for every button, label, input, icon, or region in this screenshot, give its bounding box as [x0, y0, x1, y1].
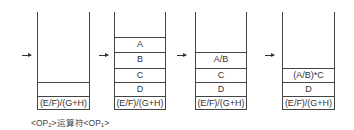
stack-1: (E/F)/(G+H) — [37, 12, 90, 110]
arrow-icon — [265, 55, 274, 56]
stack-cell: (E/F)/(G+H) — [115, 96, 165, 110]
stack-3: A/B C D (E/F)/(G+H) — [195, 12, 247, 110]
stack-cell: (A/B)*C — [283, 68, 334, 82]
stack-cell: (E/F)/(G+H) — [38, 96, 89, 110]
stack-cell: C — [115, 68, 165, 82]
stack-cell: D — [115, 82, 165, 96]
diagram-caption: <OP2>运算符<OP1> — [31, 116, 109, 128]
stack-cell: A — [115, 37, 165, 51]
stack-cell: A/B — [196, 52, 246, 66]
caption-text: >运算符<OP — [52, 118, 101, 128]
stack-cell-empty — [38, 82, 89, 96]
stack-2: A B C D (E/F)/(G+H) — [114, 12, 166, 110]
stack-cell: C — [196, 68, 246, 82]
stack-cell: (E/F)/(G+H) — [196, 96, 246, 110]
caption-text: > — [104, 118, 109, 128]
stack-cell: D — [283, 82, 334, 96]
stack-cell: D — [196, 82, 246, 96]
stack-cell: (E/F)/(G+H) — [283, 96, 334, 110]
stack-4: (A/B)*C D (E/F)/(G+H) — [282, 12, 335, 110]
arrow-icon — [99, 55, 108, 56]
stack-cell: B — [115, 52, 165, 66]
caption-text: <OP — [31, 118, 48, 128]
arrow-icon — [22, 55, 31, 56]
arrow-icon — [177, 55, 186, 56]
